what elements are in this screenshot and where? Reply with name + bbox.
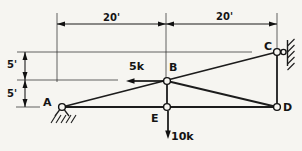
dim-label-rise-lower: 5' xyxy=(7,88,17,99)
wall-hatching-c xyxy=(288,39,295,70)
joint-label-c: C xyxy=(264,40,272,53)
dim-arrowhead-mid-from-right xyxy=(166,22,174,27)
joint-label-e: E xyxy=(151,112,159,125)
dim-arrowhead-mid-from-left xyxy=(158,22,166,27)
joint-a xyxy=(59,104,66,111)
joint-e xyxy=(164,104,171,111)
ground-hatching-a xyxy=(51,115,76,123)
dim-label-span-left: 20' xyxy=(103,12,120,23)
text-labels: A B C D E 5k 10k 20' 20' 5' 5' xyxy=(7,11,292,143)
joint-label-a: A xyxy=(43,96,52,109)
dim-arrowhead-rise-mid-lower xyxy=(23,80,28,88)
dim-label-rise-upper: 5' xyxy=(7,59,17,70)
dim-arrowhead-rise-top xyxy=(23,52,28,60)
load-label-5k: 5k xyxy=(129,60,145,73)
dim-arrowhead-rise-mid-upper xyxy=(23,72,28,80)
joint-b xyxy=(164,78,171,85)
joint-c xyxy=(274,49,281,56)
pin-leg-right xyxy=(65,110,70,116)
joints xyxy=(59,49,281,111)
dimension-lines xyxy=(23,22,278,108)
joint-label-d: D xyxy=(283,101,292,114)
truss-figure: A B C D E 5k 10k 20' 20' 5' 5' xyxy=(0,0,302,151)
load-arrow-10k-head xyxy=(165,131,171,140)
dim-arrowhead-rise-bottom xyxy=(23,99,28,107)
roller-support-c xyxy=(281,39,295,70)
dim-arrowhead-left-end xyxy=(57,22,65,27)
pin-support-a xyxy=(51,110,76,123)
dim-arrowhead-right-end xyxy=(269,22,277,27)
extension-lines xyxy=(16,13,277,107)
member-diagonal-BD xyxy=(167,81,277,107)
truss-diagram: A B C D E 5k 10k 20' 20' 5' 5' xyxy=(0,0,302,151)
joint-d xyxy=(274,104,281,111)
load-label-10k: 10k xyxy=(171,130,194,143)
dim-label-span-right: 20' xyxy=(216,11,233,22)
load-arrow-5k-head xyxy=(126,78,135,83)
roller-circle xyxy=(281,49,286,54)
joint-label-b: B xyxy=(169,61,177,74)
